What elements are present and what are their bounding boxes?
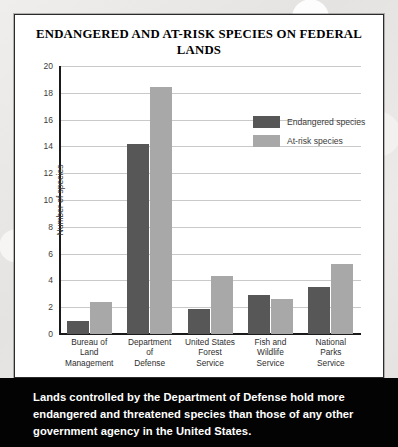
legend-label: Endangered species: [287, 117, 365, 127]
legend-swatch: [253, 135, 280, 147]
y-axis-tick-label: 8: [48, 222, 53, 232]
legend-label: At-risk species: [287, 136, 343, 146]
x-axis-labels: Bureau ofLandManagementDepartmentofDefen…: [59, 337, 361, 368]
bar: [127, 144, 149, 334]
y-axis-tick-label: 20: [44, 61, 53, 71]
y-axis-tick-label: 14: [44, 141, 53, 151]
y-axis-tick-label: 12: [44, 168, 53, 178]
legend-item: At-risk species: [253, 135, 365, 147]
chart-card: ENDANGERED AND AT-RISK SPECIES ON FEDERA…: [14, 14, 384, 378]
plot-area: 20181614121086420 Number of species: [59, 66, 361, 334]
bar: [150, 87, 172, 334]
bar: [308, 287, 330, 334]
page-title: ENDANGERED AND AT-RISK SPECIES ON FEDERA…: [21, 26, 378, 58]
legend-swatch: [253, 116, 280, 128]
y-axis-tick-label: 16: [44, 115, 53, 125]
bar: [90, 302, 112, 334]
bar: [211, 276, 233, 334]
bar: [188, 309, 210, 334]
bar-group: [301, 66, 361, 334]
y-axis-tick-label: 2: [48, 302, 53, 312]
caption-text: Lands controlled by the Department of De…: [33, 389, 365, 440]
bar-group: [119, 66, 179, 334]
legend-item: Endangered species: [253, 116, 365, 128]
x-axis-label: NationalParksService: [301, 337, 361, 368]
bar: [67, 321, 89, 334]
y-axis-tick-label: 10: [44, 195, 53, 205]
y-axis-tick-label: 6: [48, 249, 53, 259]
caption-box: Lands controlled by the Department of De…: [0, 378, 398, 447]
bar: [271, 299, 293, 334]
y-axis-tick-label: 0: [48, 329, 53, 339]
x-axis-label: United StatesForestService: [180, 337, 240, 368]
x-axis-label: Bureau ofLandManagement: [59, 337, 119, 368]
x-axis-label: Fish andWildlifeService: [240, 337, 300, 368]
bar-group: [240, 66, 300, 334]
bar-group: [180, 66, 240, 334]
bar-group: [59, 66, 119, 334]
bar: [331, 264, 353, 334]
chart-legend: Endangered speciesAt-risk species: [253, 116, 365, 147]
bar: [248, 295, 270, 334]
bar-groups: [59, 66, 361, 334]
y-axis-tick-label: 18: [44, 88, 53, 98]
x-axis-label: DepartmentofDefense: [119, 337, 179, 368]
y-axis-tick-label: 4: [48, 275, 53, 285]
